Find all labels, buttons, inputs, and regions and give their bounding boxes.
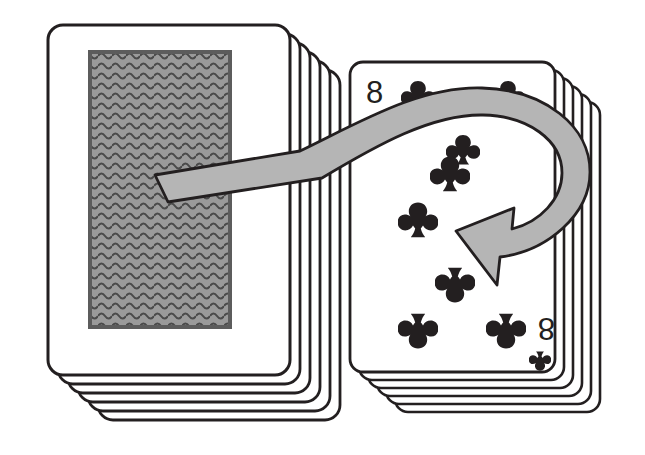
left-deck-face-down[interactable] [48, 25, 340, 420]
corner-index-top-left-rank: 8 [366, 75, 383, 110]
illustration-canvas: 8 [0, 0, 645, 455]
corner-index-bottom-right-rank: 8 [538, 311, 555, 346]
card-flip-illustration: 8 [0, 0, 645, 455]
